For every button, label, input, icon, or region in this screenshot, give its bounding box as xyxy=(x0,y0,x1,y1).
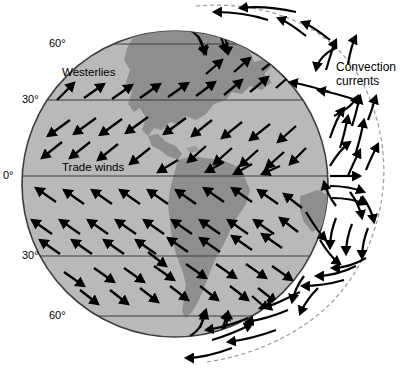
hadley-cell-south xyxy=(324,176,374,222)
lat-label-30n: 30° xyxy=(22,93,39,106)
convection-currents-line-2: currents xyxy=(336,74,396,88)
lat-label-60n: 60° xyxy=(49,37,66,50)
westerlies-label: Westerlies xyxy=(62,66,115,79)
trade-winds-label: Trade winds xyxy=(62,161,124,174)
lat-label-60s: 60° xyxy=(49,309,66,322)
circulation-diagram: 60° 30° 0° 30° 60° Westerlies Trade wind… xyxy=(0,0,403,368)
greenland xyxy=(246,20,280,48)
convection-currents-line-1: Convection xyxy=(336,60,396,74)
lat-label-0: 0° xyxy=(3,169,14,182)
lat-label-30s: 30° xyxy=(22,249,39,262)
convection-currents-label: Convection currents xyxy=(336,60,396,88)
hadley-cell-north xyxy=(330,116,378,176)
